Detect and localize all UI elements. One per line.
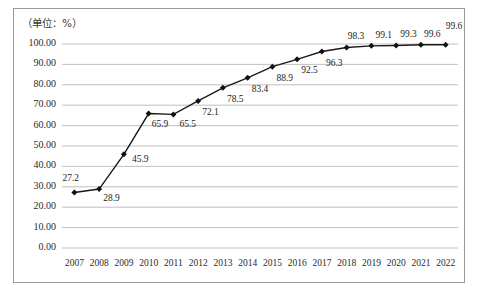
y-axis-tick-label: 70.00 <box>12 98 56 109</box>
y-axis-tick-label: 30.00 <box>12 180 56 191</box>
data-point-marker <box>393 42 399 48</box>
data-point-value-label: 45.9 <box>132 154 149 164</box>
data-point-marker <box>344 44 350 50</box>
y-axis-tick-label: 20.00 <box>12 200 56 211</box>
data-point-marker <box>319 49 325 55</box>
data-point-marker <box>245 75 251 81</box>
data-point-value-label: 99.3 <box>400 29 417 39</box>
gridlines-group <box>62 44 458 248</box>
line-chart-plot <box>0 0 477 293</box>
data-point-value-label: 99.6 <box>446 21 463 31</box>
data-point-value-label: 65.9 <box>152 119 169 129</box>
x-axis-tick-label: 2022 <box>431 258 461 268</box>
y-axis-tick-label: 60.00 <box>12 119 56 130</box>
data-point-value-label: 65.5 <box>179 119 196 129</box>
y-axis-tick-label: 0.00 <box>12 241 56 252</box>
y-axis-tick-label: 40.00 <box>12 159 56 170</box>
data-point-marker <box>195 98 201 104</box>
data-point-marker <box>146 111 152 117</box>
y-axis-tick-label: 10.00 <box>12 221 56 232</box>
data-point-value-label: 99.1 <box>375 30 392 40</box>
data-point-value-label: 98.3 <box>348 31 365 41</box>
y-axis-tick-label: 90.00 <box>12 57 56 68</box>
data-point-marker <box>170 111 176 117</box>
data-point-marker <box>443 42 449 48</box>
data-point-marker <box>220 85 226 91</box>
data-point-value-label: 96.3 <box>326 58 343 68</box>
data-point-value-label: 27.2 <box>62 173 79 183</box>
y-axis-tick-label: 100.00 <box>12 37 56 48</box>
data-point-value-label: 72.1 <box>202 107 219 117</box>
series-line-path <box>74 45 445 193</box>
y-axis-tick-label: 50.00 <box>12 139 56 150</box>
data-point-marker <box>71 190 77 196</box>
chart-figure: （单位：%） 0.0010.0020.0030.0040.0050.0060.0… <box>0 0 477 293</box>
series-markers-group <box>71 42 448 196</box>
data-point-value-label: 78.5 <box>227 94 244 104</box>
data-point-marker <box>294 56 300 62</box>
data-point-value-label: 92.5 <box>301 65 318 75</box>
data-point-value-label: 83.4 <box>252 84 269 94</box>
data-point-value-label: 88.9 <box>276 73 293 83</box>
data-point-value-label: 99.6 <box>424 29 441 39</box>
data-point-value-label: 28.9 <box>103 193 120 203</box>
data-point-marker <box>418 42 424 48</box>
y-axis-tick-label: 80.00 <box>12 78 56 89</box>
